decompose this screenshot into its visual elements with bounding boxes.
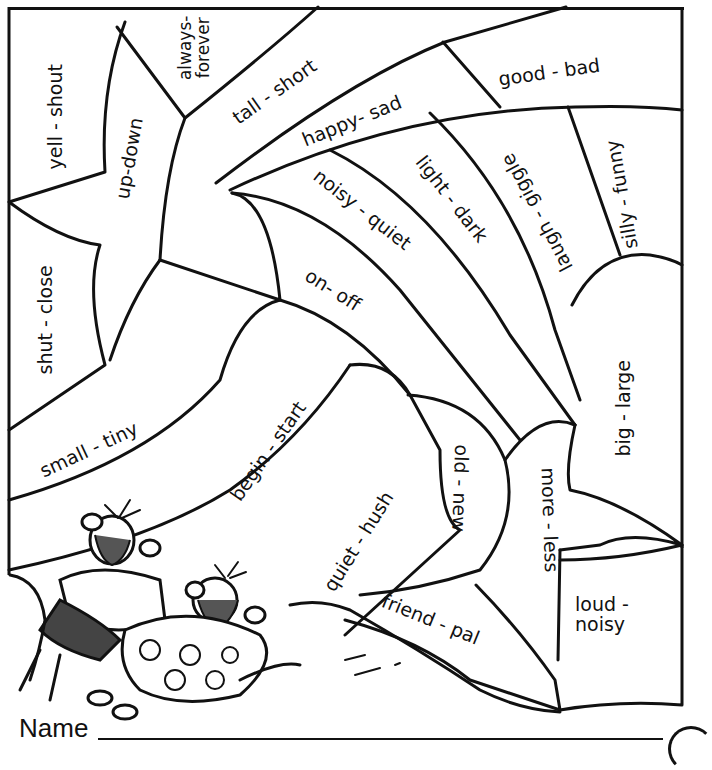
region-label-loud-noisy: loud - noisy [575, 595, 655, 635]
corner-decoration [668, 726, 712, 770]
outer-frame [8, 7, 684, 10]
region-label-yell-shout: yell - shout [46, 60, 65, 170]
always-forever-line2: forever [193, 17, 213, 78]
arc-on-off [280, 300, 410, 395]
region-label-old-new: old - new [449, 444, 471, 545]
name-label: Name [19, 713, 88, 744]
region-label-big-large: big - large [614, 327, 633, 457]
hill-grass-marks [345, 655, 400, 675]
loud-noisy-line2: noisy [575, 613, 625, 635]
arc-small-tiny-outer [110, 260, 160, 360]
loud-noisy-line1: loud - [575, 593, 629, 615]
mice-illustration [10, 500, 300, 719]
name-field-line[interactable] [98, 738, 663, 740]
arc-good-bad-divider [443, 42, 500, 107]
region-outline-up-down [9, 22, 125, 430]
region-label-more-less: more - less [538, 467, 561, 588]
arc-shut-close [160, 193, 280, 300]
region-label-always-forever: always- forever [177, 3, 213, 93]
region-label-shut-close: shut - close [36, 255, 55, 375]
